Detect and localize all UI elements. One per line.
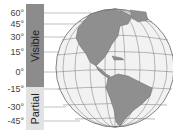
partial-band-label: Partial: [26, 87, 44, 130]
tick-label-45: 45°: [0, 20, 24, 29]
tick-label-60: 60°: [0, 9, 24, 18]
tick-label-m45: -45°: [0, 117, 24, 126]
tick-label-15: 15°: [0, 48, 24, 57]
tick-label-m30: -30°: [0, 103, 24, 112]
tick-label-m15: -15°: [0, 85, 24, 94]
tick-label-0: 0°: [0, 68, 24, 77]
tick-label-30: 30°: [0, 33, 24, 42]
visible-band-label: Visible: [26, 4, 44, 87]
globe: [56, 9, 173, 127]
